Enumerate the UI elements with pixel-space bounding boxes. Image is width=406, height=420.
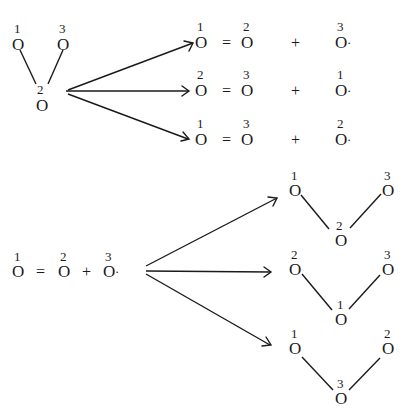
oxygen-atom: O — [335, 130, 347, 149]
radical-dot: · — [347, 83, 351, 98]
double-bond-sign: = — [222, 82, 231, 99]
atom-label: 2 — [337, 116, 344, 131]
oxygen-atom: O — [335, 310, 347, 329]
arrow-line — [146, 274, 270, 345]
radical-dot: · — [347, 132, 351, 147]
oxygen-atom: O — [241, 81, 253, 100]
oxygen-atom: O — [382, 181, 394, 200]
arrow-line — [68, 94, 188, 139]
atom-label: 2 — [197, 67, 204, 82]
bond-line — [48, 50, 63, 84]
radical-dot: · — [347, 35, 351, 50]
ozone-isotope-diagram: 1 O 3 O 2 O 1 O = 2 O + 3 O · 2 O = 3 O … — [0, 0, 406, 420]
bottom-product-3: 1 O 3 O 2 O — [289, 326, 394, 408]
oxygen-atom: O — [241, 130, 253, 149]
oxygen-atom: O — [36, 96, 48, 115]
bond-line — [301, 195, 329, 229]
bond-line — [349, 358, 380, 390]
double-bond-sign: = — [36, 263, 45, 280]
atom-label: 2 — [37, 82, 44, 97]
oxygen-atom: O — [289, 339, 301, 358]
arrow-line — [146, 198, 277, 266]
atom-label: 2 — [243, 19, 250, 34]
oxygen-atom: O — [289, 260, 301, 279]
oxygen-atom: O — [335, 231, 347, 250]
bond-line — [302, 357, 333, 390]
atom-label: 3 — [243, 116, 250, 131]
atom-label: 1 — [14, 21, 21, 36]
bottom-product-2: 2 O 1 O 3 O — [289, 247, 394, 329]
oxygen-atom: O — [289, 181, 301, 200]
atom-label: 1 — [197, 19, 204, 34]
oxygen-atom: O — [335, 389, 347, 408]
bottom-source-molecule: 1 O = 2 O + 3 O · — [12, 249, 119, 281]
atom-label: 1 — [337, 67, 344, 82]
oxygen-atom: O — [195, 130, 207, 149]
arrow-line — [146, 271, 270, 272]
oxygen-atom: O — [103, 262, 115, 281]
plus-sign: + — [291, 131, 300, 148]
bond-line — [302, 274, 332, 310]
oxygen-atom: O — [382, 339, 394, 358]
oxygen-atom: O — [12, 35, 24, 54]
top-product-1: 1 O = 2 O + 3 O · — [195, 19, 351, 52]
oxygen-atom: O — [335, 81, 347, 100]
double-bond-sign: = — [222, 34, 231, 51]
oxygen-atom: O — [241, 33, 253, 52]
atom-label: 3 — [59, 21, 66, 36]
bottom-product-1: 1 O 2 O 3 O — [289, 168, 394, 250]
arrow-line — [68, 43, 193, 90]
bond-line — [350, 194, 381, 228]
atom-label: 3 — [337, 19, 344, 34]
top-product-3: 1 O = 3 O + 2 O · — [195, 116, 351, 149]
oxygen-atom: O — [12, 262, 24, 281]
oxygen-atom: O — [382, 260, 394, 279]
oxygen-atom: O — [335, 33, 347, 52]
double-bond-sign: = — [222, 131, 231, 148]
top-arrows — [66, 41, 193, 141]
bond-line — [349, 275, 380, 309]
top-source-molecule: 1 O 3 O 2 O — [12, 21, 69, 115]
plus-sign: + — [82, 263, 91, 280]
bottom-arrows — [146, 197, 277, 346]
oxygen-atom: O — [58, 262, 70, 281]
oxygen-atom: O — [195, 33, 207, 52]
plus-sign: + — [291, 34, 300, 51]
radical-dot: · — [115, 264, 119, 279]
atom-label: 3 — [243, 67, 250, 82]
atom-label: 1 — [197, 116, 204, 131]
plus-sign: + — [291, 82, 300, 99]
top-product-2: 2 O = 3 O + 1 O · — [195, 67, 351, 100]
oxygen-atom: O — [195, 81, 207, 100]
bond-line — [20, 50, 36, 84]
